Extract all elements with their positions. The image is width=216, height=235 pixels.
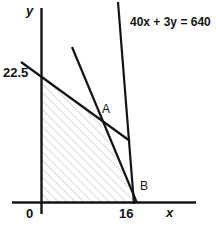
- point-label-b: B: [140, 180, 148, 192]
- origin-label: 0: [26, 207, 33, 220]
- y-axis-label: y: [26, 4, 33, 17]
- point-label-a: A: [102, 103, 110, 115]
- feasible-region-shading: [42, 73, 136, 202]
- x-tick-label-16: 16: [119, 207, 133, 220]
- constraint-equation-label: 40x + 3y = 640: [130, 16, 211, 28]
- y-intercept-label: 22.5: [3, 66, 28, 79]
- graph-figure: y x 22.5 0 16 A B 40x + 3y = 640: [0, 0, 216, 235]
- graph-canvas: [0, 0, 216, 235]
- x-axis-label: x: [166, 206, 173, 219]
